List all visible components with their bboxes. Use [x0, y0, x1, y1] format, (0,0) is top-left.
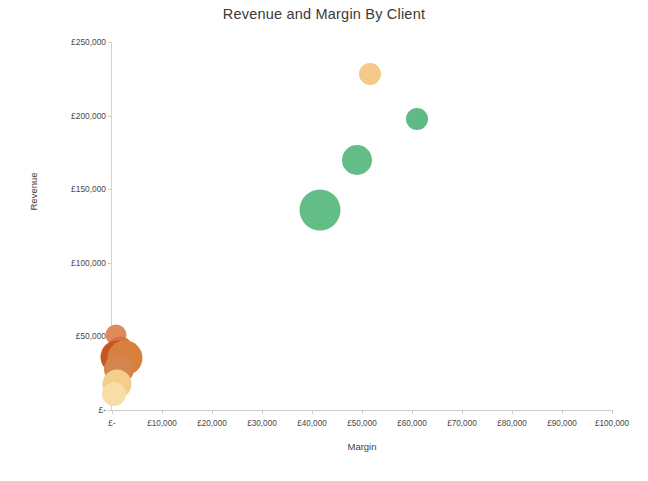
y-axis-title: Revenue	[28, 172, 39, 210]
x-axis-tick-mark	[412, 411, 413, 414]
bubble-client-peach-top[interactable]	[359, 63, 381, 85]
y-axis-tick-mark	[108, 116, 111, 117]
y-axis-tick-label: £200,000	[36, 111, 106, 121]
y-axis-tick-mark	[108, 42, 111, 43]
x-axis-tick-mark	[312, 411, 313, 414]
x-axis-title: Margin	[112, 441, 612, 452]
y-axis-tick-label: £250,000	[36, 37, 106, 47]
x-axis-tick-mark	[262, 411, 263, 414]
x-axis-tick-label: £100,000	[580, 419, 644, 428]
y-axis-tick-label: £100,000	[36, 258, 106, 268]
bubble-client-green-right[interactable]	[406, 108, 428, 130]
bubble-client-green-mid[interactable]	[342, 145, 372, 175]
x-axis-tick-mark	[212, 411, 213, 414]
y-axis-tick-mark	[108, 263, 111, 264]
bubble-chart-figure: Revenue and Margin By Client £-£50,000£1…	[0, 0, 648, 481]
x-axis-tick-mark	[562, 411, 563, 414]
x-axis-tick-mark	[462, 411, 463, 414]
bubble-client-yellow-b[interactable]	[102, 382, 126, 406]
x-axis-tick-mark	[612, 411, 613, 414]
x-axis-tick-mark	[162, 411, 163, 414]
y-axis-tick-label: £150,000	[36, 184, 106, 194]
bubble-client-green-large[interactable]	[299, 189, 340, 230]
y-axis-tick-label: £-	[36, 405, 106, 415]
y-axis-tick-mark	[108, 410, 111, 411]
x-axis-tick-mark	[362, 411, 363, 414]
x-axis-tick-mark	[112, 411, 113, 414]
x-axis-tick-mark	[512, 411, 513, 414]
y-axis-tick-mark	[108, 189, 111, 190]
y-axis-tick-label: £50,000	[36, 331, 106, 341]
page-title: Revenue and Margin By Client	[0, 6, 648, 22]
